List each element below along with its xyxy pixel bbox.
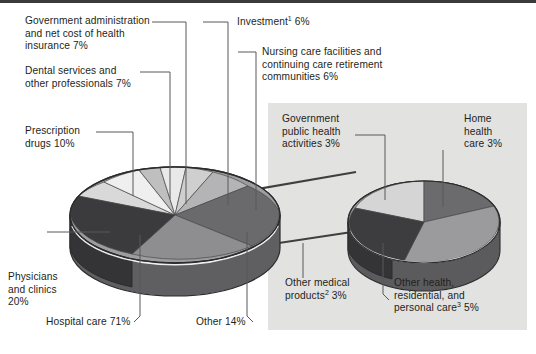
figure-root: Government administration and net cost o… xyxy=(0,0,536,354)
label-investment: Investment1 6% xyxy=(237,16,357,29)
label-other-health-tail: 5% xyxy=(461,302,479,313)
label-other-medical-tail: 3% xyxy=(329,290,347,301)
label-home-health-care: Home health care 3% xyxy=(464,113,520,151)
label-hospital-care: Hospital care 71% xyxy=(46,316,136,329)
label-prescription-drugs: Prescription drugs 10% xyxy=(25,125,103,150)
label-other: Other 14% xyxy=(196,316,256,329)
breakout-pie xyxy=(348,181,500,291)
label-physicians-clinics: Physicians and clinics 20% xyxy=(8,271,68,309)
label-other-medical-products: Other medical products2 3% xyxy=(285,277,385,302)
label-investment-tail: 6% xyxy=(292,16,310,27)
label-other-health-residential: Other health, residential, and personal … xyxy=(394,277,510,315)
label-nursing-care: Nursing care facilities and continuing c… xyxy=(262,46,422,84)
main-pie xyxy=(70,167,280,296)
label-government-public-health: Government public health activities 3% xyxy=(282,113,368,151)
label-dental-services: Dental services and other professionals … xyxy=(25,65,145,90)
label-investment-text: Investment xyxy=(237,16,288,27)
label-other-health-text: Other health, residential, and personal … xyxy=(394,277,465,313)
label-government-administration: Government administration and net cost o… xyxy=(25,15,155,53)
